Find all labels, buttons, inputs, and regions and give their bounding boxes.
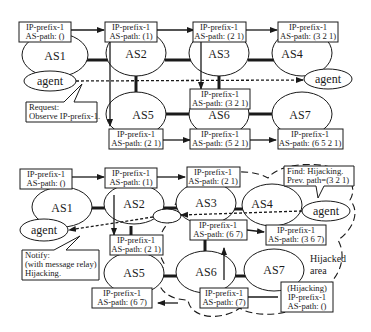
- bottom-as2-label: AS2: [123, 197, 144, 211]
- top-route-box-as7: IP-prefix-1 AS-path: (6 5 2 1): [278, 129, 343, 149]
- svg-text:AS-path: (2 1): AS-path: (2 1): [188, 176, 238, 186]
- svg-text:AS-path: (6 5 2 1): AS-path: (6 5 2 1): [279, 138, 342, 148]
- bottom-route-box-as5-in: IP-prefix-1 AS-path: (2 1): [110, 235, 163, 255]
- top-as1-label: AS1: [44, 49, 65, 63]
- top-as4-label: AS4: [281, 47, 302, 61]
- bottom-as7-label: AS7: [263, 263, 284, 277]
- svg-text:AS-path: (1): AS-path: (1): [109, 31, 152, 41]
- bottom-diagram: AS1 AS2 AS3 AS4 AS5 AS6 AS7 agent agent: [20, 164, 355, 316]
- svg-text:AS-path: (3 6 7): AS-path: (3 6 7): [268, 234, 324, 244]
- bottom-agent-as1-label: agent: [31, 223, 58, 237]
- svg-text:AS-path: (7): AS-path: (7): [202, 297, 245, 307]
- top-route-box-as6-in: IP-prefix-1 AS-path: (3 2 1): [190, 89, 250, 109]
- top-route-box-as1: IP-prefix-1 AS-path: (): [19, 22, 71, 42]
- svg-text:AS-path: (): AS-path: (): [26, 31, 65, 41]
- svg-text:AS-path: (3 2 1): AS-path: (3 2 1): [280, 31, 336, 41]
- svg-text:Observe IP-prefix-1.: Observe IP-prefix-1.: [29, 111, 100, 121]
- bottom-as4-label: AS4: [251, 197, 272, 211]
- bottom-as5-label: AS5: [123, 266, 144, 280]
- bottom-route-box-as3: IP-prefix-1 AS-path: (2 1): [187, 167, 240, 187]
- bottom-as3-label: AS3: [195, 196, 216, 210]
- bottom-agent-as4-label: agent: [313, 204, 340, 218]
- svg-text:AS-path: (2 1): AS-path: (2 1): [194, 31, 244, 41]
- top-route-box-as2: IP-prefix-1 AS-path: (1): [105, 22, 157, 42]
- bottom-route-box-as2: IP-prefix-1 AS-path: (1): [105, 168, 157, 188]
- svg-text:AS-path: (3 2 1): AS-path: (3 2 1): [192, 98, 248, 108]
- top-as5-label: AS5: [132, 108, 153, 122]
- top-agent-as1-label: agent: [37, 74, 64, 88]
- bottom-as6-label: AS6: [195, 265, 216, 279]
- top-route-box-as3: IP-prefix-1 AS-path: (2 1): [193, 22, 246, 42]
- svg-text:AS-path: (5 2 1): AS-path: (5 2 1): [192, 138, 248, 148]
- hijack-origin-box: (Hijacking) IP-prefix-1 AS-path: (): [281, 282, 333, 312]
- top-as6-label: AS6: [208, 108, 229, 122]
- bgp-hijack-diagram: AS1 AS2 AS3 AS4 AS5 AS6 AS7 agent agent: [0, 0, 371, 332]
- svg-text:Hijacking.: Hijacking.: [25, 268, 61, 278]
- bottom-route-box-as1: IP-prefix-1 AS-path: (): [20, 169, 72, 189]
- bottom-route-box-as3-in: IP-prefix-1 AS-path: (6 7): [190, 220, 247, 240]
- svg-text:AS-path: (6 7): AS-path: (6 7): [193, 229, 243, 239]
- svg-text:AS-path: (2 1): AS-path: (2 1): [111, 244, 161, 254]
- svg-text:Prev. path=(3 2 1): Prev. path=(3 2 1): [287, 175, 349, 185]
- top-as3-label: AS3: [208, 47, 229, 61]
- svg-text:Hijacked: Hijacked: [310, 253, 346, 264]
- top-as2-label: AS2: [125, 47, 146, 61]
- svg-text:AS-path: (2 1): AS-path: (2 1): [111, 138, 161, 148]
- svg-text:AS-path: (): AS-path: (): [27, 178, 66, 188]
- relay-node: [153, 209, 181, 223]
- bottom-route-box-as5: IP-prefix-1 AS-path: (6 7): [92, 288, 152, 308]
- svg-text:AS-path: (): AS-path: (): [288, 301, 327, 311]
- top-agent-as4-label: agent: [315, 72, 342, 86]
- svg-text:AS-path: (6 7): AS-path: (6 7): [97, 297, 147, 307]
- top-route-box-as4: IP-prefix-1 AS-path: (3 2 1): [278, 22, 338, 42]
- svg-text:AS-path: (1): AS-path: (1): [109, 177, 152, 187]
- bottom-route-box-as6: IP-prefix-1 AS-path: (7): [200, 288, 248, 308]
- notify-callout: Notify: (with message relay) Hijacking.: [22, 236, 99, 280]
- top-route-box-as6: IP-prefix-1 AS-path: (5 2 1): [190, 129, 250, 149]
- top-route-box-as5: IP-prefix-1 AS-path: (2 1): [109, 129, 163, 149]
- svg-text:area: area: [310, 265, 327, 276]
- top-as7-label: AS7: [289, 108, 310, 122]
- bottom-route-box-as4-in: IP-prefix-1 AS-path: (3 6 7): [266, 225, 326, 245]
- bottom-as1-label: AS1: [51, 201, 72, 215]
- top-diagram: AS1 AS2 AS3 AS4 AS5 AS6 AS7 agent agent: [19, 22, 352, 149]
